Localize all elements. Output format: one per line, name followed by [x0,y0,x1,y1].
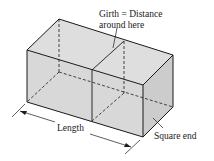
girth-label-line1: Girth = Distance [99,9,162,19]
girth-label-line2: around here [99,20,144,30]
square-end-label: Square end [154,131,197,141]
box-diagram: Girth = Distance around here Length Squa… [0,0,214,161]
length-label: Length [57,123,84,133]
arrowhead-right-icon [124,143,131,147]
arrowhead-left-icon [20,111,27,115]
